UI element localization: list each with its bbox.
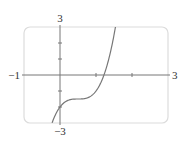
y-min-label: −3	[54, 125, 66, 137]
x-max-label: 3	[172, 69, 178, 81]
x-min-label: −1	[8, 69, 20, 81]
y-max-label: 3	[57, 12, 63, 24]
cubic-function-graph: −1 3 3 −3	[0, 0, 188, 147]
